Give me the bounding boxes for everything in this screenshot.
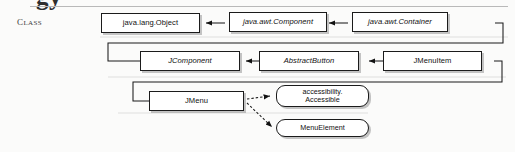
class-box-label: JComponent	[168, 57, 212, 66]
edge-jmenu-menuelement	[247, 103, 272, 127]
class-box-label: java.awt.Component	[243, 18, 313, 27]
class-box-jmenuitem[interactable]: JMenuItem	[383, 51, 482, 71]
class-box-java-awt-container[interactable]: java.awt.Container	[352, 12, 448, 32]
class-box-java-lang-object[interactable]: java.lang.Object	[101, 13, 200, 33]
interface-box-accessible[interactable]: accessibility. Accessible	[276, 85, 369, 107]
class-box-label: java.lang.Object	[123, 19, 178, 28]
interface-box-menuelement[interactable]: MenuElement	[276, 119, 369, 137]
edge-jmenu-accessible	[247, 96, 270, 99]
class-box-label: JMenuItem	[413, 57, 451, 66]
class-box-abstractbutton[interactable]: AbstractButton	[259, 51, 359, 71]
class-box-java-awt-component[interactable]: java.awt.Component	[229, 12, 327, 32]
class-box-label: AbstractButton	[284, 57, 335, 66]
interface-label-line2: Accessible	[305, 96, 339, 104]
interface-label-line1: MenuElement	[300, 124, 344, 132]
class-box-label: java.awt.Container	[368, 18, 432, 27]
class-hierarchy-figure: gy Class	[0, 0, 515, 152]
class-box-jcomponent[interactable]: JComponent	[140, 51, 240, 71]
class-box-jmenu[interactable]: JMenu	[149, 91, 244, 111]
class-box-label: JMenu	[185, 97, 208, 106]
